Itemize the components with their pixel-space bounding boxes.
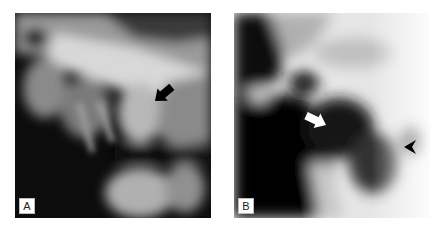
figure-panel-b: B [234, 13, 430, 218]
radiograph-image-a [15, 13, 211, 218]
panel-label-a: A [19, 198, 35, 214]
panel-label-b: B [238, 198, 254, 214]
radiograph-image-b [234, 13, 430, 218]
figure-panel-a: A [15, 13, 211, 218]
